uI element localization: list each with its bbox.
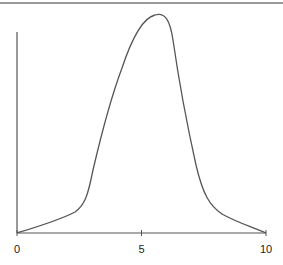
x-tick-label-5: 5 — [138, 243, 144, 255]
x-tick-label-10: 10 — [260, 243, 272, 255]
density-curve — [17, 14, 266, 233]
x-tick-label-0: 0 — [14, 243, 20, 255]
chart-canvas — [0, 0, 283, 265]
